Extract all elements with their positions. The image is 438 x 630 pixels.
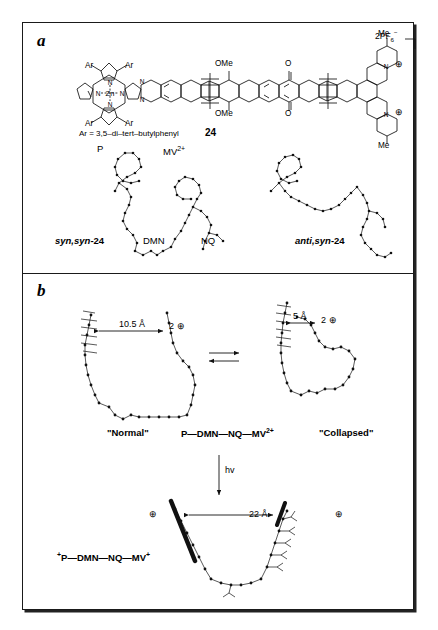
subunit-label-nq: NQ — [201, 235, 215, 246]
charge-label-normal: 2 ⊕ — [169, 321, 185, 331]
ground-state-formula: P—DMN—NQ—MV2+ — [181, 427, 274, 439]
conformer-label-synsyn: syn,syn-24 — [55, 235, 104, 246]
subunit-label-dmn: DMN — [143, 235, 165, 246]
conformer-label-antisyn: anti,syn-24 — [295, 235, 345, 246]
excited-state-formula: +P—DMN—NQ—MV+ — [57, 551, 150, 563]
distance-label-separated: 22 Å — [249, 509, 268, 519]
charge-symbol-left: ⊕ — [149, 509, 157, 519]
charge-label-collapsed: 2 ⊕ — [321, 315, 337, 325]
distance-label-collapsed: 5 Å — [293, 311, 307, 321]
equilibrium-arrows — [209, 353, 239, 361]
charge-symbol-right: ⊕ — [335, 509, 343, 519]
subunit-label-mv: MV2+ — [163, 145, 185, 157]
subunit-label-p: P — [97, 143, 103, 154]
state-label-normal: "Normal" — [107, 427, 149, 438]
distance-label-normal: 10.5 Å — [119, 319, 145, 329]
state-label-collapsed: "Collapsed" — [319, 427, 373, 438]
photon-label: hv — [225, 465, 235, 475]
figure-frame: a b — [22, 22, 414, 610]
